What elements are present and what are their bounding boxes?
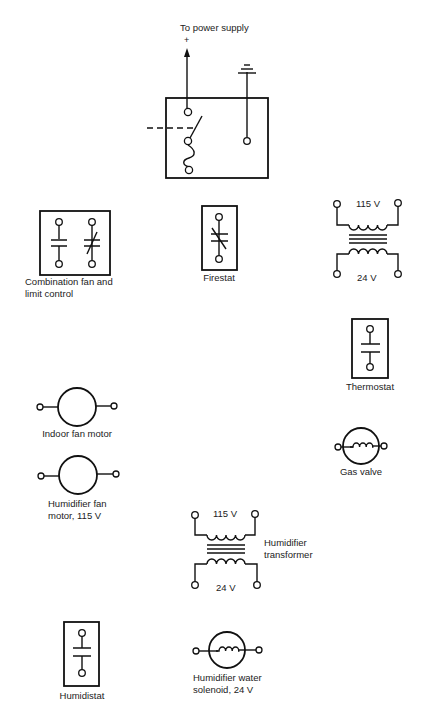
indoor-fan-motor-symbol [37,388,117,426]
humidifier-fan-motor-label-1: Humidifier fan [48,498,107,510]
power-supply-label: To power supply [180,22,249,34]
gas-valve-label: Gas valve [340,466,382,478]
svg-text:24 V: 24 V [216,582,236,593]
humidifier-water-solenoid-label-2: solenoid, 24 V [193,684,253,696]
arrow-up-icon [184,48,190,57]
humidifier-water-solenoid-label-1: Humidifier water [193,672,262,684]
positive-sign: + [184,34,189,46]
humidifier-transformer-symbol: 115 V 24 V [192,508,261,593]
svg-text:115 V: 115 V [213,508,238,519]
firestat-label: Firestat [203,272,235,284]
thermostat-symbol [352,319,388,378]
secondary-coil [349,249,387,254]
humidifier-fan-motor-symbol [38,456,119,494]
gas-valve-symbol [335,428,387,464]
wiring-components-diagram: 115 V 24 V [0,0,433,725]
power-disconnect-box [147,48,268,178]
primary-coil [349,225,387,230]
coil-icon [216,647,239,651]
humidistat-label: Humidistat [60,690,105,702]
firestat-symbol [202,206,237,270]
combination-fan-limit-label-2: limit control [25,288,73,300]
thermostat-label: Thermostat [346,381,394,393]
svg-text:115 V: 115 V [356,198,381,209]
main-transformer-symbol: 115 V 24 V [334,198,402,283]
coil-icon [350,443,373,447]
combination-fan-limit-label-1: Combination fan and [25,276,113,288]
humidifier-transformer-label-1: Humidifier [264,537,307,549]
humidifier-transformer-label-2: transformer [264,549,313,561]
combination-fan-limit-symbol [40,211,110,275]
svg-text:24 V: 24 V [357,272,377,283]
fuse-icon [184,145,194,167]
switch-blade [190,116,202,138]
humidistat-symbol [64,622,99,686]
indoor-fan-motor-label: Indoor fan motor [42,428,112,440]
humidifier-fan-motor-label-2: motor, 115 V [48,510,101,522]
humidifier-water-solenoid-symbol [193,632,262,668]
